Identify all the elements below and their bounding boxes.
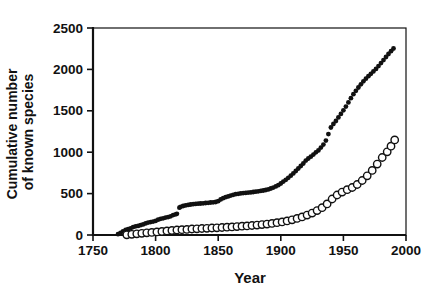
- x-tick-label: 1900: [266, 243, 296, 258]
- y-tick-label: 1000: [53, 145, 83, 160]
- y-tick-label: 2500: [53, 21, 83, 36]
- data-point-open: [391, 136, 398, 143]
- data-point-filled: [326, 132, 331, 137]
- y-tick-label: 0: [75, 228, 83, 243]
- y-tick-label: 2000: [53, 62, 83, 77]
- data-point-filled: [175, 211, 180, 216]
- series-filled-circles: [116, 46, 396, 237]
- x-tick-label: 2000: [391, 243, 421, 258]
- data-point-open: [369, 167, 376, 174]
- y-tick-label: 500: [60, 186, 83, 201]
- x-axis-label: Year: [234, 269, 266, 286]
- y-axis-label: Cumulative number of known species: [4, 65, 36, 200]
- data-point-filled: [324, 138, 329, 143]
- data-point-filled: [346, 100, 351, 105]
- y-axis-ticks: 05001000150020002500: [53, 21, 93, 243]
- data-point-filled: [391, 46, 396, 51]
- x-tick-label: 1800: [141, 243, 171, 258]
- series-open-circles: [123, 136, 398, 238]
- species-accumulation-chart: 05001000150020002500 1750180018501900195…: [0, 0, 437, 301]
- x-tick-label: 1750: [78, 243, 108, 258]
- x-tick-label: 1850: [203, 243, 233, 258]
- x-tick-label: 1950: [328, 243, 358, 258]
- x-axis-ticks: 175018001850190019502000: [78, 235, 421, 258]
- data-point-filled: [349, 96, 354, 101]
- data-point-filled: [321, 142, 326, 147]
- y-tick-label: 1500: [53, 103, 83, 118]
- chart-figure: 05001000150020002500 1750180018501900195…: [0, 0, 437, 301]
- plot-area-border: [93, 28, 406, 235]
- data-point-open: [374, 160, 381, 167]
- data-point-filled: [344, 104, 349, 109]
- data-series-layer: [116, 46, 399, 238]
